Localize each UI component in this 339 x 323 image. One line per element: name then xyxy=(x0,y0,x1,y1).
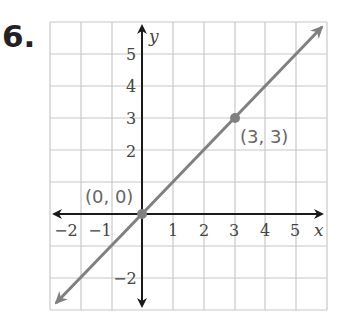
x-axis-label: x xyxy=(314,220,324,240)
y-tick-5: 5 xyxy=(126,45,136,64)
x-tick-3: 3 xyxy=(229,221,239,240)
x-tick-4: 4 xyxy=(260,221,270,240)
y-tick-3: 3 xyxy=(126,109,136,128)
x-tick-neg2: −2 xyxy=(54,221,78,240)
coordinate-plane: −2 −1 1 2 3 4 5 x 5 4 3 2 −2 y (0, 0) (3… xyxy=(0,0,339,323)
point-origin xyxy=(137,209,147,219)
y-tick-neg2: −2 xyxy=(113,269,137,288)
point-3-3 xyxy=(230,113,240,123)
x-tick-neg1: −1 xyxy=(88,221,112,240)
point-origin-label: (0, 0) xyxy=(85,186,133,207)
y-tick-4: 4 xyxy=(126,77,136,96)
line-series xyxy=(56,27,322,303)
x-tick-1: 1 xyxy=(168,221,178,240)
point-3-3-label: (3, 3) xyxy=(240,126,288,147)
y-axis-label: y xyxy=(148,26,159,46)
x-tick-5: 5 xyxy=(290,221,300,240)
x-tick-2: 2 xyxy=(199,221,209,240)
y-tick-2: 2 xyxy=(126,142,136,161)
